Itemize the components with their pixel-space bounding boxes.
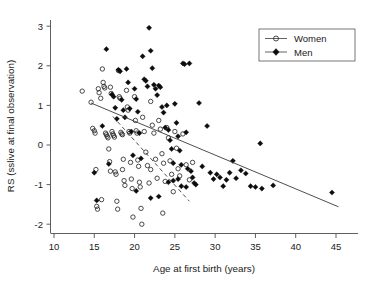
data-point-men [211,176,216,181]
data-point-women [147,181,151,185]
regression-line-men [91,103,338,207]
data-point-women [173,129,177,133]
data-point-men [258,141,263,146]
data-point-women [120,167,124,171]
data-point-women [140,222,144,226]
data-point-women [190,160,194,164]
data-point-women [139,206,143,210]
data-point-men [169,146,174,151]
data-point-women [140,115,144,119]
chart-canvas: -2-10123 1015202530354045 Age at first b… [0,0,367,283]
x-axis-title: Age at first birth (years) [153,263,255,274]
data-point-women [129,177,133,181]
data-point-women [130,186,134,190]
data-point-women [128,160,132,164]
y-tick-label: -1 [35,179,43,190]
data-point-men [113,105,118,110]
data-point-women [95,207,99,211]
data-point-men [174,120,179,125]
x-tick-label: 40 [290,241,301,252]
data-point-men [204,123,209,128]
data-point-women [169,172,173,176]
y-axis-title: RS (sslive at final observation) [5,60,16,192]
data-point-men [92,170,97,175]
data-point-men [127,106,132,111]
data-point-men [148,48,153,53]
data-point-women [80,89,84,93]
y-tick-label: 3 [38,21,43,32]
data-point-women [157,118,161,122]
data-point-men [104,47,109,52]
data-point-women [136,164,140,168]
data-point-men [177,148,182,153]
data-point-women [138,185,142,189]
data-point-men [161,110,166,115]
data-point-men [184,184,189,189]
data-point-men [243,171,248,176]
data-point-men [164,103,169,108]
legend: Women Men [259,29,355,61]
data-point-women [171,190,175,194]
data-point-men [208,170,213,175]
data-point-women [150,123,154,127]
data-point-men [155,93,160,98]
data-point-men [175,176,180,181]
x-tick-label: 45 [331,241,342,252]
data-point-men [171,178,176,183]
data-point-women [155,176,159,180]
data-point-men [271,183,276,188]
data-point-men [130,153,135,158]
data-point-women [161,211,165,215]
data-point-women [153,157,157,161]
data-point-men [134,96,139,101]
x-tick-label: 20 [129,241,140,252]
data-point-women [122,178,126,182]
data-point-men [187,61,192,66]
y-tick-label: 0 [38,139,43,150]
data-point-men [259,186,264,191]
data-point-men [253,184,258,189]
data-point-men [329,190,334,195]
data-point-men [148,195,153,200]
data-point-women [99,96,103,100]
data-point-men [138,156,143,161]
data-point-women [176,167,180,171]
data-point-women [115,207,119,211]
data-point-women [160,152,164,156]
data-point-men [179,184,184,189]
data-point-men [233,176,238,181]
data-point-women [100,67,104,71]
regression-line-women [113,116,190,201]
data-point-men [221,184,226,189]
data-point-men [150,66,155,71]
data-point-men [196,100,201,105]
regression-lines [91,103,338,207]
data-point-women [142,129,146,133]
data-point-men [145,84,150,89]
data-point-men [119,97,124,102]
data-point-women [107,147,111,151]
data-point-women [124,88,128,92]
data-point-women [148,167,152,171]
data-point-women [108,85,112,89]
scatter-plot-figure: -2-10123 1015202530354045 Age at first b… [0,0,367,283]
x-tick-label: 10 [49,241,60,252]
y-tick-group: -2-10123 [35,21,51,230]
legend-women-label: Women [294,33,327,44]
data-point-men [167,138,172,143]
x-tick-label: 15 [89,241,100,252]
x-tick-label: 35 [250,241,261,252]
data-point-men [248,184,253,189]
data-point-men [94,198,99,203]
data-point-women [152,131,156,135]
y-tick-label: 1 [38,100,43,111]
data-point-women [158,127,162,131]
data-point-men [175,134,180,139]
x-tick-label: 25 [170,241,181,252]
data-point-women [99,197,103,201]
data-point-women [115,199,119,203]
data-point-men [106,161,111,166]
data-point-men [132,86,137,91]
y-tick-label: 2 [38,60,43,71]
data-point-men [184,130,189,135]
